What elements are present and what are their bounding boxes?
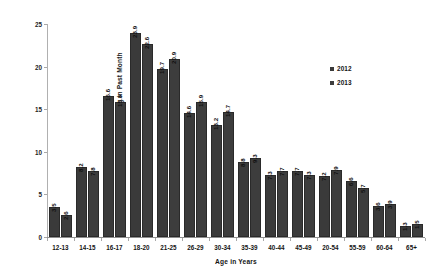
y-axis-tick-mark [44, 194, 47, 195]
bar-value-label: 3.5 [50, 203, 57, 212]
bar-value-label: 14.6 [185, 105, 192, 117]
bar-2012-35-39 [238, 162, 249, 237]
bar-value-label: 13.2 [212, 117, 219, 129]
bar-2012-20-54 [319, 176, 330, 237]
bar-2012-45-49 [292, 171, 303, 237]
x-axis-tick-mark [263, 238, 264, 241]
bar-2013-20-54 [331, 170, 342, 237]
bar-2012-26-29 [184, 113, 195, 237]
bar-value-label: 7.9 [332, 166, 339, 175]
y-axis-tick-label: 5 [23, 191, 42, 198]
x-axis-category-label: 45-49 [295, 244, 311, 251]
bar-2012-55-59 [346, 181, 357, 237]
y-axis-tick-mark [44, 109, 47, 110]
legend-swatch-icon [330, 67, 334, 71]
legend-item-2013[interactable]: 2013 [330, 77, 352, 88]
bar-value-label: 9.3 [251, 154, 258, 163]
x-axis-category-label: 65+ [406, 244, 417, 251]
x-axis-category-label: 21-25 [160, 244, 176, 251]
y-axis-tick-label: 10 [23, 148, 42, 155]
x-axis-tick-mark [209, 238, 210, 241]
chart-legend: 20122013 [330, 63, 352, 91]
bar-2013-21-25 [169, 59, 180, 237]
y-axis-tick-mark [44, 152, 47, 153]
bar-value-label: 5.7 [359, 185, 366, 194]
x-axis-tick-mark [371, 238, 372, 241]
bar-value-label: 8.2 [77, 163, 84, 172]
x-axis-title: Age in Years [47, 258, 425, 265]
x-axis-tick-mark [182, 238, 183, 241]
y-axis-tick-label: 15 [23, 106, 42, 113]
x-axis-category-label: 26-29 [187, 244, 203, 251]
legend-item-2012[interactable]: 2012 [330, 63, 352, 74]
bar-value-label: 14.7 [224, 104, 231, 116]
bar-2013-26-29 [196, 102, 207, 237]
bar-2013-40-44 [277, 171, 288, 237]
bar-value-label: 8.8 [239, 158, 246, 167]
x-axis-tick-mark [74, 238, 75, 241]
bar-value-label: 2.6 [62, 211, 69, 220]
x-axis-category-label: 12-13 [52, 244, 68, 251]
y-axis-tick-label: 25 [23, 21, 42, 28]
bar-2012-14-15 [76, 167, 87, 237]
y-axis-tick-mark [44, 67, 47, 68]
bar-value-label: 7.3 [266, 171, 273, 180]
bar-2013-55-59 [358, 188, 369, 237]
y-axis-tick-label: 0 [23, 234, 42, 241]
bar-2013-35-39 [250, 158, 261, 237]
x-axis-tick-mark [155, 238, 156, 241]
x-axis-category-label: 60-64 [376, 244, 392, 251]
x-axis-category-label: 18-20 [133, 244, 149, 251]
plot-area: 0510152025 3.52.68.27.816.615.823.922.61… [47, 24, 425, 238]
legend-item-label: 2013 [337, 79, 352, 86]
legend-item-label: 2012 [337, 65, 352, 72]
bar-2012-40-44 [265, 175, 276, 237]
x-axis-category-label: 55-59 [349, 244, 365, 251]
bar-chart: Percent Using in Past Month 0510152025 3… [0, 0, 436, 278]
bar-value-label: 23.9 [131, 26, 138, 38]
x-axis-category-label: 20-54 [322, 244, 338, 251]
x-axis-tick-mark [47, 238, 48, 241]
x-axis-category-label: 30-34 [214, 244, 230, 251]
x-axis-category-label: 40-44 [268, 244, 284, 251]
bar-value-label: 6.6 [347, 177, 354, 186]
bar-2013-18-20 [142, 44, 153, 237]
bar-value-label: 3.6 [374, 203, 381, 212]
x-axis-tick-mark [101, 238, 102, 241]
bar-value-label: 7.7 [278, 168, 285, 177]
bar-value-label: 15.9 [197, 94, 204, 106]
x-axis-tick-mark [425, 238, 426, 241]
bar-2013-45-49 [304, 175, 315, 237]
x-axis-tick-mark [236, 238, 237, 241]
bar-value-label: 7.8 [89, 167, 96, 176]
bar-value-label: 7.2 [320, 172, 327, 181]
x-axis-category-label: 16-17 [106, 244, 122, 251]
y-axis-tick-mark [44, 24, 47, 25]
bar-value-label: 16.6 [104, 88, 111, 100]
bar-value-label: 3.9 [386, 200, 393, 209]
x-axis-tick-mark [128, 238, 129, 241]
x-axis-tick-mark [344, 238, 345, 241]
bar-value-label: 15.8 [116, 95, 123, 107]
x-axis-category-label: 14-15 [79, 244, 95, 251]
x-axis-category-label: 35-39 [241, 244, 257, 251]
bar-2012-21-25 [157, 69, 168, 237]
x-axis-tick-mark [398, 238, 399, 241]
y-axis-line [47, 24, 48, 238]
bar-value-label: 20.9 [170, 52, 177, 64]
bar-value-label: 7.3 [305, 171, 312, 180]
bar-value-label: 19.7 [158, 62, 165, 74]
bar-2012-30-34 [211, 125, 222, 237]
x-axis-tick-mark [290, 238, 291, 241]
x-axis-tick-mark [317, 238, 318, 241]
bar-2013-14-15 [88, 171, 99, 237]
bar-value-label: 7.7 [293, 168, 300, 177]
bar-value-label: 1.3 [401, 222, 408, 231]
bar-2012-18-20 [130, 33, 141, 237]
bar-2012-16-17 [103, 96, 114, 237]
bar-value-label: 1.5 [413, 220, 420, 229]
legend-swatch-icon [330, 81, 334, 85]
y-axis-tick-label: 20 [23, 63, 42, 70]
bar-2013-30-34 [223, 112, 234, 237]
bar-value-label: 22.6 [143, 37, 150, 49]
